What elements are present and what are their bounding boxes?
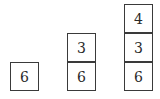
- number-box: 6: [67, 62, 96, 91]
- number-box: 3: [67, 33, 96, 62]
- number-box: 6: [124, 62, 153, 91]
- number-box: 3: [124, 33, 153, 62]
- number-box: 6: [10, 62, 39, 91]
- number-box: 4: [124, 4, 153, 33]
